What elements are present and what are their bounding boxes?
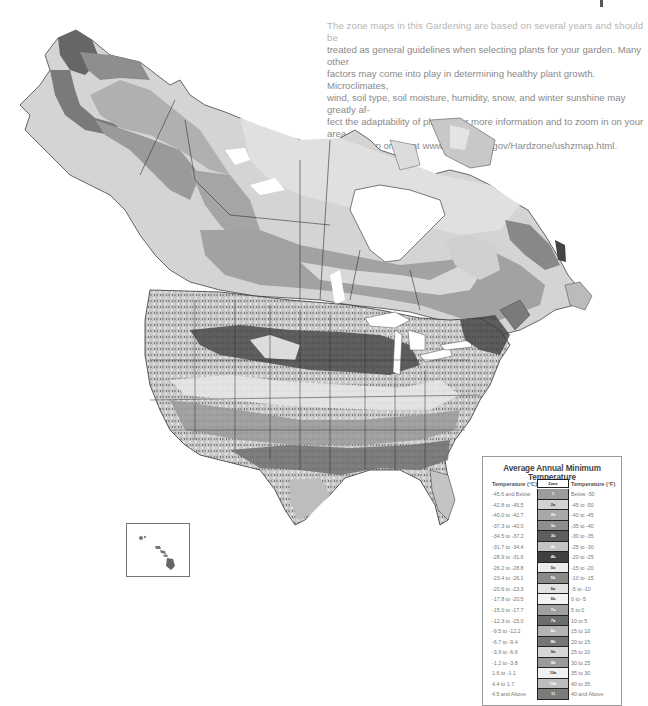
legend-row: -26.2 to -28.85a-15 to -20 <box>483 563 621 574</box>
legend-fahrenheit: -45 to -50 <box>571 502 594 508</box>
legend-celsius: 1.6 to -1.1 <box>492 670 516 676</box>
legend-fahrenheit: -20 to -25 <box>571 554 594 560</box>
legend-zone-swatch: 6b <box>537 594 569 605</box>
contiguous-us <box>145 290 530 525</box>
legend-col-celsius: Temperature (°C) <box>492 481 537 487</box>
hawaii-inset <box>126 523 190 577</box>
legend-zone-swatch: 8b <box>537 637 569 648</box>
legend-celsius: -34.5 to -37.2 <box>492 533 524 539</box>
legend-celsius: -20.6 to -23.3 <box>492 586 524 592</box>
legend-celsius: -9.5 to -12.2 <box>492 628 521 634</box>
legend-celsius: -31.7 to -34.4 <box>492 544 524 550</box>
legend-row: -31.7 to -34.44a-25 to -30 <box>483 542 621 553</box>
legend-zone-swatch: 2b <box>537 510 569 521</box>
legend-row: 1.6 to -1.110a35 to 30 <box>483 668 621 679</box>
legend-celsius: -45.6 and Below <box>492 491 530 497</box>
legend-fahrenheit: -35 to -40 <box>571 523 594 529</box>
legend-row: -28.9 to -31.64b-20 to -25 <box>483 552 621 563</box>
alaska-canada-landmass <box>20 30 592 335</box>
legend-row: -40.0 to -42.72b-40 to -45 <box>483 510 621 521</box>
legend-row: -9.5 to -12.28a15 to 10 <box>483 626 621 637</box>
legend-fahrenheit: 40 to 35 <box>571 681 590 687</box>
legend-zone-swatch: 5a <box>537 563 569 574</box>
legend-celsius: -37.3 to -40.0 <box>492 523 524 529</box>
legend-celsius: -1.2 to -3.8 <box>492 660 518 666</box>
legend-zone-swatch: 7a <box>537 605 569 616</box>
legend-zone-swatch: 3b <box>537 531 569 542</box>
legend-fahrenheit: -30 to -35 <box>571 533 594 539</box>
legend-fahrenheit: 10 to 5 <box>571 618 587 624</box>
legend-fahrenheit: 0 to -5 <box>571 596 586 602</box>
legend-celsius: 4.5 and Above <box>492 691 526 697</box>
legend-celsius: -15.0 to -17.7 <box>492 607 524 613</box>
legend-fahrenheit: -25 to -30 <box>571 544 594 550</box>
legend-zone-swatch: 6a <box>537 584 569 595</box>
legend-row: -45.6 and Below1Below -50 <box>483 489 621 500</box>
legend-zone-swatch: 5b <box>537 573 569 584</box>
legend-celsius: -28.9 to -31.6 <box>492 554 524 560</box>
legend-zone-swatch: 9b <box>537 658 569 669</box>
legend-fahrenheit: 30 to 25 <box>571 660 590 666</box>
legend-zone-swatch: 11 <box>537 689 569 700</box>
legend-col-fahrenheit: Temperature (°F) <box>571 481 615 487</box>
legend-row: 4.5 and Above1140 and Above <box>483 689 621 700</box>
legend-celsius: -23.4 to -26.1 <box>492 575 524 581</box>
legend-fahrenheit: -10 to -15 <box>571 575 594 581</box>
legend-zone-swatch: 10a <box>537 668 569 679</box>
legend-fahrenheit: Below -50 <box>571 491 595 497</box>
legend-fahrenheit: 40 and Above <box>571 691 603 697</box>
legend-row: -34.5 to -37.23b-30 to -35 <box>483 531 621 542</box>
legend-zone-swatch: 3a <box>537 521 569 532</box>
legend-row: -12.3 to -15.07b10 to 5 <box>483 616 621 627</box>
legend-fahrenheit: 35 to 30 <box>571 670 590 676</box>
legend-zone-swatch: 8a <box>537 626 569 637</box>
legend-zone-swatch: 9a <box>537 647 569 658</box>
legend-fahrenheit: 25 to 20 <box>571 649 590 655</box>
legend-row: -37.3 to -40.03a-35 to -40 <box>483 521 621 532</box>
legend-fahrenheit: 15 to 10 <box>571 628 590 634</box>
legend-celsius: -42.8 to -45.5 <box>492 502 524 508</box>
legend-zone-swatch: 4b <box>537 552 569 563</box>
legend-row: -20.6 to -23.36a-5 to -10 <box>483 584 621 595</box>
legend-celsius: -26.2 to -28.8 <box>492 565 524 571</box>
legend-celsius: 4.4 to 1.7 <box>492 681 514 687</box>
legend-row: -42.8 to -45.52a-45 to -50 <box>483 500 621 511</box>
legend-fahrenheit: -15 to -20 <box>571 565 594 571</box>
legend-fahrenheit: -5 to -10 <box>571 586 591 592</box>
legend-row: -23.4 to -26.15b-10 to -15 <box>483 573 621 584</box>
legend-col-zone: Zone <box>537 479 569 488</box>
legend-row: -1.2 to -3.89b30 to 25 <box>483 658 621 669</box>
legend-zone-swatch: 10b <box>537 679 569 690</box>
legend-celsius: -40.0 to -42.7 <box>492 512 524 518</box>
legend-fahrenheit: -40 to -45 <box>571 512 594 518</box>
legend-celsius: -6.7 to -9.4 <box>492 639 518 645</box>
legend-zone-swatch: 1 <box>537 489 569 500</box>
legend-fahrenheit: 5 to 0 <box>571 607 584 613</box>
legend-row: -15.0 to -17.77a5 to 0 <box>483 605 621 616</box>
legend-row: -17.8 to -20.56b0 to -5 <box>483 594 621 605</box>
legend-celsius: -12.3 to -15.0 <box>492 618 524 624</box>
legend-zone-swatch: 2a <box>537 500 569 511</box>
legend-row: -6.7 to -9.48b20 to 15 <box>483 637 621 648</box>
legend-row: -3.9 to -6.69a25 to 20 <box>483 647 621 658</box>
legend-celsius: -3.9 to -6.6 <box>492 649 518 655</box>
legend-row: 4.4 to 1.710b40 to 35 <box>483 679 621 690</box>
legend-fahrenheit: 20 to 15 <box>571 639 590 645</box>
legend-zone-swatch: 4a <box>537 542 569 553</box>
legend-rows: -45.6 and Below1Below -50-42.8 to -45.52… <box>483 489 621 700</box>
legend-zone-swatch: 7b <box>537 616 569 627</box>
legend: Average Annual Minimum Temperature Tempe… <box>482 456 622 706</box>
legend-celsius: -17.8 to -20.5 <box>492 596 524 602</box>
hawaii-islands-icon <box>127 524 189 576</box>
